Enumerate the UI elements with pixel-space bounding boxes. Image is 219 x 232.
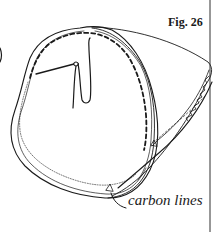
figure-label: Fig. 26 [168,15,203,30]
back-fabric-inner-edge [152,70,209,146]
needle-icon [36,62,78,74]
back-fabric-outline [92,27,212,196]
thread-icon [73,38,91,108]
back-fabric-lower-edge [118,82,212,188]
left-edge-mark [0,48,2,62]
carbon-lines-callout: carbon lines [128,192,203,209]
front-fabric-rim-inner [95,31,152,180]
